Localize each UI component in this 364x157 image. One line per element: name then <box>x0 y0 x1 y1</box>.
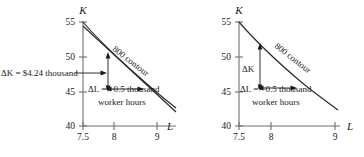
contour-label: 800 contour <box>111 44 151 79</box>
delta-l-label-line1: ΔL = −0.5 thousand <box>88 84 160 94</box>
chart-panel-left: K L 55 50 45 40 7.5 8 9 <box>0 0 182 157</box>
x-tick-label-8: 8 <box>269 132 274 142</box>
y-axis-title: K <box>234 4 243 16</box>
x-tick-label-7-5: 7.5 <box>77 132 89 142</box>
contour-label: 800 contour <box>273 41 313 76</box>
y-tick-label-50: 50 <box>222 52 232 62</box>
x-axis-title: L <box>166 120 173 132</box>
x-tick-label-9: 9 <box>333 132 338 142</box>
y-tick-label-55: 55 <box>66 17 76 27</box>
figure-root: K L 55 50 45 40 7.5 8 9 <box>0 0 364 157</box>
x-tick-label-9: 9 <box>155 132 160 142</box>
y-tick-label-40: 40 <box>222 121 232 131</box>
delta-l-label-line2: worker hours <box>98 97 146 107</box>
y-tick-label-45: 45 <box>66 87 76 97</box>
axes-right <box>235 21 340 130</box>
x-axis-title: L <box>346 120 353 132</box>
x-tick-label-7-5: 7.5 <box>233 132 245 142</box>
x-tick-label-8: 8 <box>112 132 117 142</box>
delta-l-label-line1: ΔL = −0.5 thousand <box>240 84 312 94</box>
y-tick-label-50: 50 <box>66 52 76 62</box>
y-tick-label-45: 45 <box>222 87 232 97</box>
axes-left <box>79 21 176 130</box>
delta-k-label: ΔK <box>242 64 255 74</box>
delta-l-label-line2: worker hours <box>252 97 300 107</box>
delta-k-pointer-arrow <box>75 71 107 76</box>
chart-panel-right: K L 55 50 45 40 7.5 8 9 800 contour ΔK Δ… <box>182 0 364 157</box>
y-axis-title: K <box>78 4 87 16</box>
y-tick-label-55: 55 <box>222 17 232 27</box>
delta-k-label: ΔK = $4.24 thousand <box>1 68 78 78</box>
y-tick-label-40: 40 <box>66 121 76 131</box>
